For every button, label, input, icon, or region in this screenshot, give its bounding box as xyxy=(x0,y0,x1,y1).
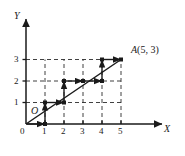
coordinate-plane-figure: Y X O 0 1 2 3 4 5 1 2 3 A(5, 3) xyxy=(0,0,185,156)
data-point xyxy=(62,101,66,105)
point-a-coords: (5, 3) xyxy=(137,44,159,55)
x-tick-label-1: 1 xyxy=(42,127,47,136)
x-tick-label-5: 5 xyxy=(118,127,123,136)
x-tick-label-3: 3 xyxy=(80,127,85,136)
data-point xyxy=(81,79,85,83)
point-a-label: A(5, 3) xyxy=(131,45,159,55)
x-tick-label-4: 4 xyxy=(99,127,104,136)
data-point xyxy=(62,79,66,83)
graph-canvas xyxy=(0,0,185,156)
y-tick-label-3: 3 xyxy=(14,55,19,64)
line-through-origin-to-a xyxy=(26,60,121,125)
x-tick-label-0: 0 xyxy=(20,127,25,136)
y-axis-label: Y xyxy=(14,11,20,21)
y-tick-label-2: 2 xyxy=(14,77,19,86)
data-point xyxy=(43,101,47,105)
x-axis-label: X xyxy=(164,124,170,134)
x-tick-label-2: 2 xyxy=(61,127,66,136)
data-point-a xyxy=(119,58,123,62)
y-tick-label-1: 1 xyxy=(14,98,19,107)
grid-vertical-lines xyxy=(45,60,121,125)
data-point xyxy=(100,79,104,83)
origin-label: O xyxy=(31,106,38,116)
data-point xyxy=(100,58,104,62)
